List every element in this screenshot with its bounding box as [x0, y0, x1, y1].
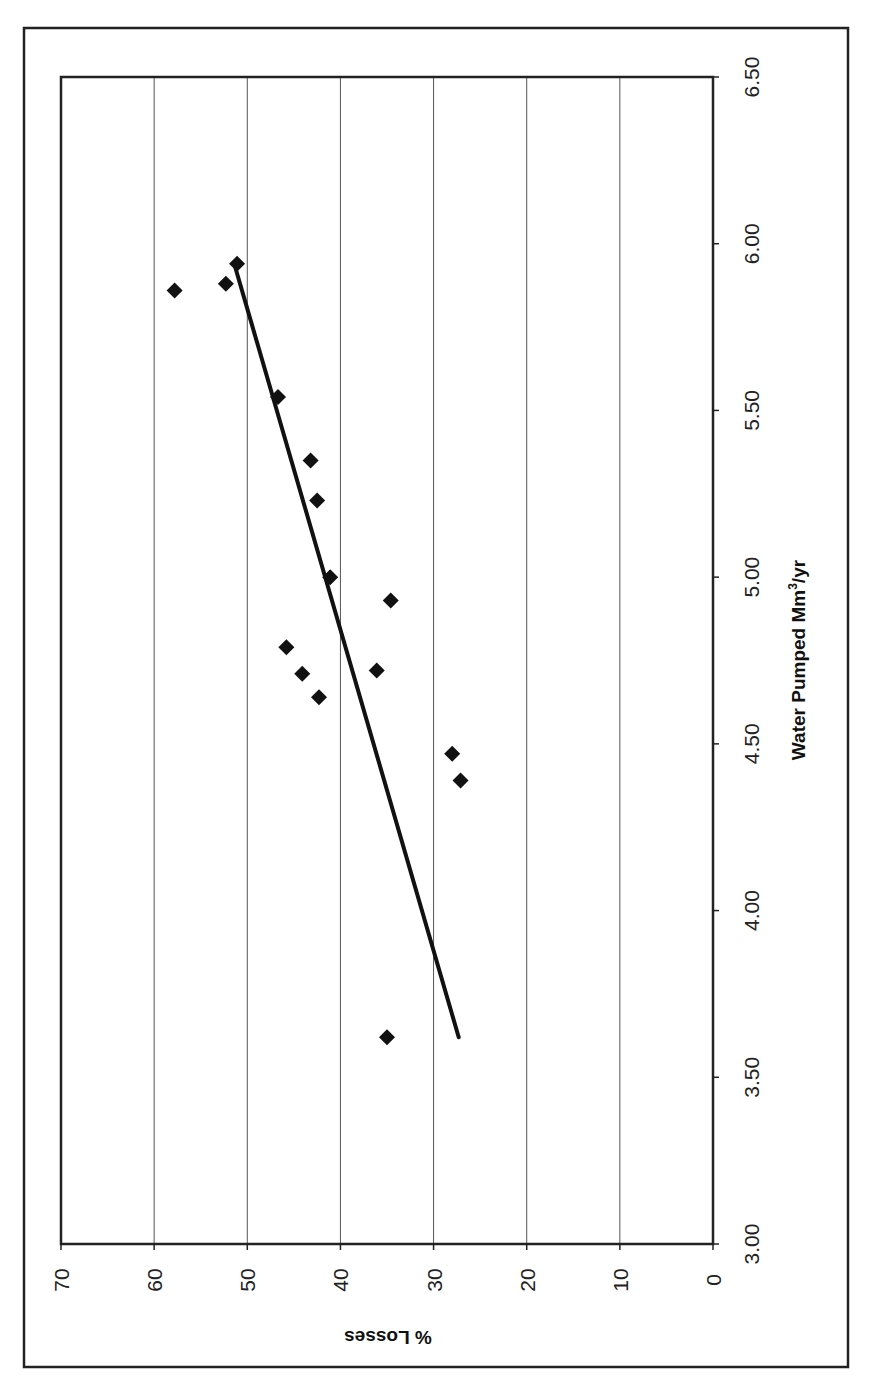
y-tick-label: 50 [236, 1268, 259, 1291]
x-tick-label: 5.00 [740, 557, 763, 598]
y-axis-title: % Losses [344, 1327, 432, 1348]
trend-line [235, 267, 459, 1037]
y-tick-label: 70 [50, 1268, 73, 1291]
x-tick-label: 5.50 [740, 390, 763, 431]
data-point-diamond [311, 689, 327, 705]
outer-frame [24, 28, 848, 1367]
y-tick-label: 40 [329, 1268, 352, 1291]
y-tick-label: 10 [609, 1268, 632, 1291]
chart: 3.003.504.004.505.005.506.006.50 0102030… [0, 0, 872, 1392]
data-point-diamond [379, 1029, 395, 1045]
x-tick-label: 6.00 [740, 223, 763, 264]
data-point-diamond [369, 663, 385, 679]
x-tick-label: 6.50 [740, 57, 763, 98]
data-point-diamond [167, 282, 183, 298]
data-point-diamond [383, 592, 399, 608]
x-axis-title: Water Pumped Mm3/yr [786, 559, 809, 760]
data-point-diamond [278, 639, 294, 655]
plot-area [61, 77, 713, 1244]
x-tick-label: 4.50 [740, 723, 763, 764]
y-tick-label: 60 [143, 1268, 166, 1291]
data-point-diamond [294, 666, 310, 682]
y-tick-label: 0 [702, 1274, 725, 1286]
data-point-diamond [229, 256, 245, 272]
gridlines [154, 77, 620, 1244]
data-point-diamond [218, 276, 234, 292]
trend-line-segment [235, 267, 459, 1037]
x-tick-label: 4.00 [740, 890, 763, 931]
data-points [167, 256, 469, 1046]
data-point-diamond [303, 452, 319, 468]
y-axis-ticks: 010203040506070 [50, 1244, 725, 1292]
y-tick-label: 20 [516, 1268, 539, 1291]
x-tick-label: 3.00 [740, 1224, 763, 1265]
x-tick-label: 3.50 [740, 1057, 763, 1098]
data-point-diamond [444, 746, 460, 762]
data-point-diamond [453, 773, 469, 789]
data-point-diamond [309, 492, 325, 508]
y-tick-label: 30 [423, 1268, 446, 1291]
x-axis-ticks: 3.003.504.004.505.005.506.006.50 [713, 57, 763, 1265]
